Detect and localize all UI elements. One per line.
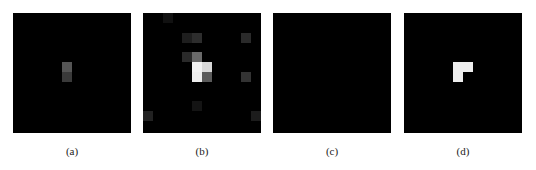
panel-d (404, 13, 522, 133)
heatmap-cell (62, 62, 72, 72)
panel-c (273, 13, 391, 133)
heatmap-cell (202, 72, 212, 82)
heatmap-cell (251, 111, 261, 121)
heatmap-cell (202, 62, 212, 72)
heatmap-cell (192, 101, 202, 111)
caption-b: (b) (143, 145, 261, 157)
heatmap-cell (163, 13, 173, 23)
heatmap-cell (192, 72, 202, 82)
heatmap-cell (192, 52, 202, 62)
caption-a: (a) (13, 145, 131, 157)
heatmap-cell (143, 111, 153, 121)
caption-d: (d) (404, 145, 522, 157)
heatmap-cell (182, 52, 192, 62)
heatmap-cell (453, 72, 463, 82)
heatmap-cell (241, 72, 251, 82)
heatmap-cell (463, 62, 473, 72)
caption-c: (c) (273, 145, 391, 157)
heatmap-cell (192, 33, 202, 43)
panel-b (143, 13, 261, 133)
heatmap-cell (62, 72, 72, 82)
heatmap-cell (241, 33, 251, 43)
heatmap-cell (453, 62, 463, 72)
heatmap-cell (182, 33, 192, 43)
panel-a (13, 13, 131, 133)
heatmap-cell (192, 62, 202, 72)
